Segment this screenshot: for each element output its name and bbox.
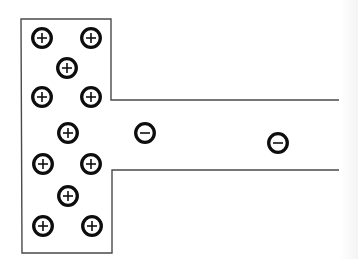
positive-charge: + [82,155,101,174]
positive-charge: + [33,88,52,107]
positive-charge: + [33,29,52,48]
negative-charge: − [136,124,155,143]
charge-diagram: +++++++++++−− [0,0,358,259]
positive-charge: + [34,217,53,236]
positive-charge: + [58,59,77,78]
negative-charge: − [269,134,288,153]
positive-charge: + [34,155,53,174]
positive-charge: + [82,88,101,107]
positive-charge: + [59,187,78,206]
positive-charge: + [82,29,101,48]
charges-group: +++++++++++−− [33,29,288,236]
diagram-canvas: +++++++++++−− [0,0,358,259]
positive-charge: + [59,124,78,143]
positive-charge: + [83,217,102,236]
